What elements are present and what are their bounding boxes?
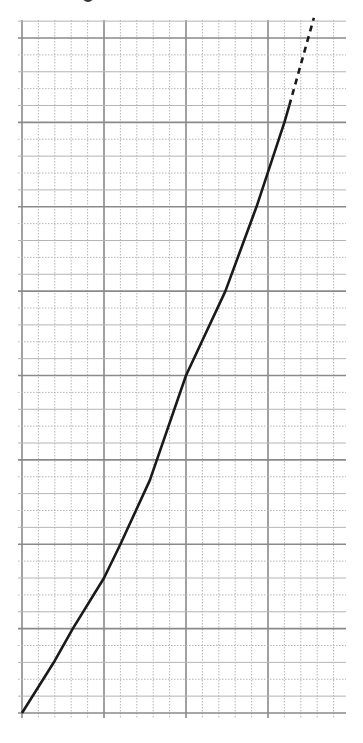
chart-grid xyxy=(18,20,346,718)
series-extrapolated xyxy=(289,18,314,106)
line-chart xyxy=(0,0,363,743)
